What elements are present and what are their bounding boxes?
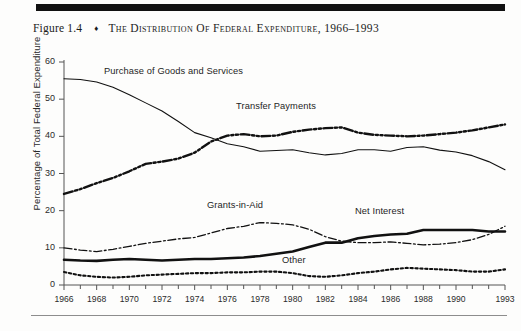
x-tick-label: 1988 [406, 294, 440, 304]
x-tick-label: 1993 [488, 294, 521, 304]
x-tick-label: 1984 [341, 294, 375, 304]
chart-canvas [0, 0, 521, 331]
x-tick-label: 1980 [276, 294, 310, 304]
x-tick-label: 1974 [178, 294, 212, 304]
x-tick-label: 1970 [112, 294, 146, 304]
y-tick-label: 40 [33, 130, 55, 140]
series-label-purchase-of-goods-and-services: Purchase of Goods and Services [104, 66, 243, 76]
y-tick-label: 20 [33, 205, 55, 215]
x-tick-label: 1972 [145, 294, 179, 304]
y-tick-label: 0 [33, 279, 55, 289]
y-tick-label: 10 [33, 242, 55, 252]
series-label-other: Other [282, 255, 306, 265]
x-tick-label: 1968 [80, 294, 114, 304]
y-tick-label: 50 [33, 93, 55, 103]
series-line-other [64, 268, 505, 278]
y-axis-title: Percentage of Total Federal Expenditure [31, 24, 42, 224]
x-tick-label: 1986 [374, 294, 408, 304]
series-line-grants-in-aid [64, 223, 505, 252]
series-label-net-interest: Net Interest [355, 206, 404, 216]
y-tick-label: 30 [33, 168, 55, 178]
figure-container: Figure 1.4 ♦ The Distribution of Federal… [0, 0, 521, 331]
x-tick-label: 1978 [243, 294, 277, 304]
line-chart: Percentage of Total Federal Expenditure … [0, 0, 521, 331]
series-line-purchase-of-goods-and-services [64, 79, 505, 170]
x-tick-label: 1976 [210, 294, 244, 304]
bottom-divider-rule [31, 315, 507, 316]
y-tick-label: 60 [33, 56, 55, 66]
series-label-transfer-payments: Transfer Payments [236, 101, 316, 111]
series-label-grants-in-aid: Grants-in-Aid [207, 200, 263, 210]
x-tick-label: 1982 [308, 294, 342, 304]
series-line-transfer-payments [64, 124, 505, 194]
x-tick-label: 1990 [439, 294, 473, 304]
x-tick-label: 1966 [47, 294, 81, 304]
